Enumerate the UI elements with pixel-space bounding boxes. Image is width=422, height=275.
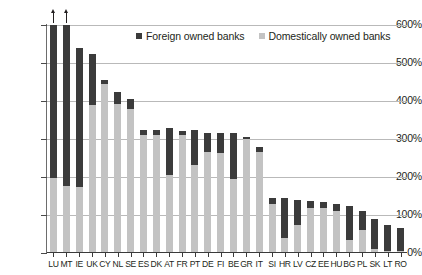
- bar-segment-domestic: [101, 84, 108, 253]
- bar-fr: [179, 25, 186, 253]
- bar-hu: [333, 25, 340, 253]
- bar-segment-foreign: [76, 48, 83, 187]
- x-axis-tick: [221, 253, 222, 257]
- x-axis-tick: [131, 253, 132, 257]
- bar-segment-domestic: [179, 135, 186, 253]
- x-axis-tick: [349, 253, 350, 257]
- bar-de: [204, 25, 211, 253]
- bar-segment-foreign: [114, 92, 121, 105]
- bar-segment-domestic: [269, 204, 276, 253]
- bar-segment-foreign: [230, 133, 237, 179]
- bar-se: [127, 25, 134, 253]
- bar-segment-domestic: [114, 104, 121, 253]
- bar-es: [140, 25, 147, 253]
- x-axis-label-se: SE: [125, 259, 136, 269]
- bar-segment-domestic: [333, 211, 340, 253]
- x-axis-tick: [53, 253, 54, 257]
- bar-sk: [371, 25, 378, 253]
- bar-segment-foreign: [191, 130, 198, 165]
- x-axis-tick: [285, 253, 286, 257]
- x-axis-tick: [195, 253, 196, 257]
- x-axis-label-lt: LT: [383, 259, 392, 269]
- bar-segment-domestic: [217, 153, 224, 253]
- bar-gr: [243, 25, 250, 253]
- x-axis-label-ee: EE: [318, 259, 329, 269]
- bar-segment-foreign: [204, 133, 211, 152]
- bar-segment-foreign: [179, 131, 186, 135]
- x-axis-label-mt: MT: [60, 259, 72, 269]
- bar-mt: [63, 25, 70, 253]
- x-axis-tick: [375, 253, 376, 257]
- x-axis-tick: [323, 253, 324, 257]
- x-axis-tick: [79, 253, 80, 257]
- bank-assets-stacked-bar-chart: Foreign owned banks Domestically owned b…: [0, 0, 422, 275]
- bar-segment-foreign: [384, 225, 391, 252]
- bar-fi: [217, 25, 224, 253]
- bar-segment-foreign: [127, 99, 134, 109]
- x-axis-label-at: AT: [164, 259, 174, 269]
- bar-segment-domestic: [191, 165, 198, 253]
- bar-segment-domestic: [140, 135, 147, 253]
- bar-cy: [101, 25, 108, 253]
- bar-lu: [50, 25, 57, 253]
- x-axis-tick: [336, 253, 337, 257]
- bar-segment-domestic: [166, 175, 173, 253]
- bar-segment-foreign: [166, 128, 173, 176]
- bar-ie: [76, 25, 83, 253]
- bar-segment-domestic: [294, 225, 301, 254]
- x-axis-label-lu: LU: [48, 259, 58, 269]
- bar-segment-domestic: [281, 238, 288, 253]
- bar-si: [269, 25, 276, 253]
- x-axis-label-de: DE: [202, 259, 213, 269]
- exceeds-axis-arrow-lu: [50, 9, 57, 23]
- bar-segment-domestic: [320, 208, 327, 253]
- bar-it: [256, 25, 263, 253]
- bar-segment-domestic: [204, 152, 211, 253]
- x-axis-label-es: ES: [138, 259, 149, 269]
- bar-segment-foreign: [359, 211, 366, 230]
- x-axis-tick: [272, 253, 273, 257]
- bar-segment-domestic: [243, 139, 250, 253]
- bar-segment-domestic: [359, 230, 366, 253]
- x-axis-baseline: [47, 252, 407, 253]
- x-axis-tick: [66, 253, 67, 257]
- x-axis-label-be: BE: [228, 259, 239, 269]
- x-axis-tick: [233, 253, 234, 257]
- x-axis-labels: LUMTIEUKCYNLSEESDKATFRPTDEFIBEGRITSIHRLV…: [47, 259, 407, 273]
- bar-be: [230, 25, 237, 253]
- bar-segment-foreign: [89, 54, 96, 105]
- x-axis-label-bg: BG: [343, 259, 355, 269]
- x-axis-tick: [259, 253, 260, 257]
- bar-segment-foreign: [333, 204, 340, 212]
- bar-segment-domestic: [230, 179, 237, 253]
- bar-segment-domestic: [256, 152, 263, 253]
- x-axis-tick: [401, 253, 402, 257]
- x-axis-label-lv: LV: [293, 259, 302, 269]
- x-axis-label-cy: CY: [99, 259, 110, 269]
- bar-segment-domestic: [50, 178, 57, 253]
- x-axis-label-pl: PL: [357, 259, 367, 269]
- x-axis-tick: [156, 253, 157, 257]
- x-axis-label-hr: HR: [279, 259, 291, 269]
- bar-segment-foreign: [307, 201, 314, 209]
- bar-at: [166, 25, 173, 253]
- bar-segment-foreign: [153, 130, 160, 136]
- x-axis-tick: [169, 253, 170, 257]
- x-axis-tick: [311, 253, 312, 257]
- bar-segment-domestic: [127, 109, 134, 253]
- bar-pl: [359, 25, 366, 253]
- x-axis-tick: [388, 253, 389, 257]
- x-axis-tick: [362, 253, 363, 257]
- x-axis-label-cz: CZ: [305, 259, 316, 269]
- bar-segment-domestic: [76, 187, 83, 253]
- x-axis-tick: [118, 253, 119, 257]
- bar-segment-foreign: [140, 130, 147, 136]
- x-axis-label-sk: SK: [369, 259, 380, 269]
- x-axis-label-it: IT: [256, 259, 263, 269]
- bar-segment-domestic: [89, 105, 96, 253]
- bar-ro: [397, 25, 404, 253]
- bar-uk: [89, 25, 96, 253]
- plot-area: [47, 25, 407, 253]
- bar-segment-foreign: [346, 206, 353, 240]
- bar-segment-foreign: [294, 200, 301, 225]
